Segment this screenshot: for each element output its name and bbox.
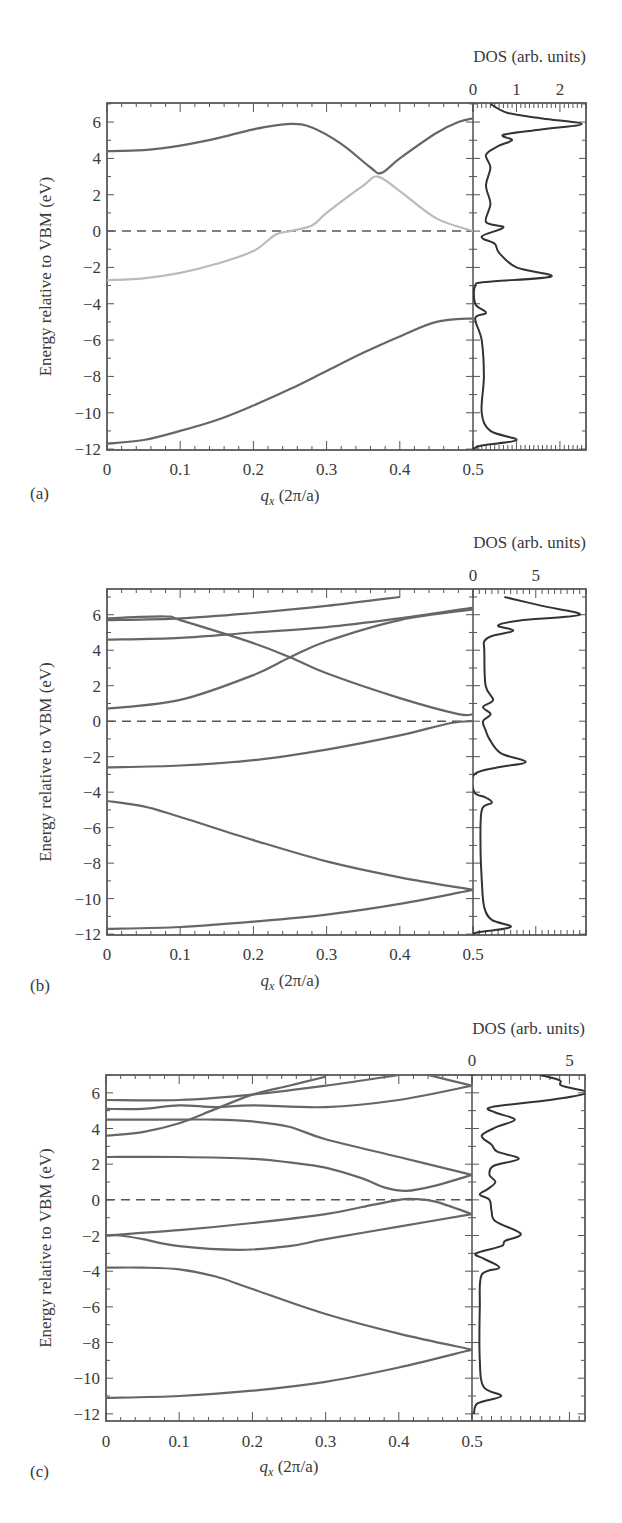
x-tick-label: 0.4 bbox=[389, 945, 411, 964]
y-tick-label: −12 bbox=[74, 925, 101, 944]
x-tick-label: 0.5 bbox=[461, 1432, 482, 1451]
x-tick-label: 0.1 bbox=[170, 945, 191, 964]
x-axis-title: qx (2π/a) bbox=[260, 1457, 319, 1479]
y-tick-label: −2 bbox=[82, 1227, 100, 1246]
y-tick-label: −4 bbox=[83, 295, 102, 314]
x-tick-label: 0.2 bbox=[242, 1432, 263, 1451]
band-line bbox=[107, 318, 473, 443]
y-tick-label: −10 bbox=[73, 1369, 100, 1388]
y-tick-label: 2 bbox=[92, 1155, 101, 1174]
dos-curve bbox=[473, 104, 582, 449]
y-tick-label: 2 bbox=[93, 186, 102, 205]
band-line bbox=[107, 176, 473, 280]
band-line bbox=[107, 801, 473, 890]
y-tick-label: 0 bbox=[92, 1191, 101, 1210]
dos-curve bbox=[472, 597, 580, 934]
y-tick-label: −4 bbox=[82, 1262, 101, 1281]
band-line bbox=[107, 616, 473, 715]
plot-frame bbox=[107, 103, 586, 450]
x-tick-label: 0.1 bbox=[169, 1432, 190, 1451]
band-line bbox=[107, 890, 473, 929]
y-tick-label: 0 bbox=[93, 222, 102, 241]
y-tick-label: −2 bbox=[83, 258, 101, 277]
dos-tick-label: 0 bbox=[469, 80, 478, 99]
x-tick-label: 0.5 bbox=[462, 460, 483, 479]
y-tick-label: −8 bbox=[83, 367, 101, 386]
y-tick-label: −6 bbox=[83, 331, 101, 350]
x-tick-label: 0.2 bbox=[243, 945, 264, 964]
band-structure-figure: 6420−2−4−6−8−10−1200.10.20.30.40.5012DOS… bbox=[0, 0, 622, 1523]
y-axis-title: Energy relative to VBM (eV) bbox=[36, 177, 55, 377]
panel-label: (a) bbox=[30, 484, 49, 503]
band-line bbox=[107, 721, 473, 767]
x-tick-label: 0 bbox=[103, 945, 112, 964]
dos-tick-label: 2 bbox=[556, 80, 565, 99]
y-axis-title: Energy relative to VBM (eV) bbox=[36, 1148, 55, 1348]
dos-axis-title: DOS (arb. units) bbox=[473, 47, 586, 66]
band-line bbox=[106, 1350, 472, 1398]
x-tick-label: 0.4 bbox=[389, 460, 411, 479]
band-line bbox=[107, 118, 473, 173]
y-tick-label: −12 bbox=[73, 1405, 100, 1424]
y-tick-label: 6 bbox=[93, 606, 102, 625]
x-tick-label: 0.4 bbox=[388, 1432, 410, 1451]
x-tick-label: 0 bbox=[103, 460, 112, 479]
y-tick-label: −12 bbox=[74, 440, 101, 459]
y-tick-label: 4 bbox=[93, 641, 102, 660]
x-tick-label: 0.2 bbox=[243, 460, 264, 479]
band-line bbox=[107, 608, 473, 640]
dos-axis-title: DOS (arb. units) bbox=[473, 533, 586, 552]
dos-curve bbox=[474, 1075, 587, 1414]
plot-frame bbox=[107, 589, 586, 935]
x-tick-label: 0.3 bbox=[315, 1432, 336, 1451]
y-tick-label: 6 bbox=[93, 113, 102, 132]
dos-tick-label: 5 bbox=[532, 566, 541, 585]
y-tick-label: −2 bbox=[83, 748, 101, 767]
y-tick-label: 2 bbox=[93, 677, 102, 696]
y-tick-label: 4 bbox=[93, 149, 102, 168]
x-axis-title: qx (2π/a) bbox=[261, 486, 320, 508]
dos-axis-title: DOS (arb. units) bbox=[472, 1019, 585, 1038]
dos-tick-label: 1 bbox=[512, 80, 521, 99]
plot-frame bbox=[106, 1075, 585, 1421]
x-tick-label: 0.3 bbox=[316, 460, 337, 479]
y-axis-title: Energy relative to VBM (eV) bbox=[36, 662, 55, 862]
panel-label: (b) bbox=[30, 976, 50, 995]
y-tick-label: −4 bbox=[83, 783, 102, 802]
x-tick-label: 0.1 bbox=[170, 460, 191, 479]
y-tick-label: 6 bbox=[92, 1084, 101, 1103]
x-tick-label: 0.5 bbox=[462, 945, 483, 964]
y-tick-label: −8 bbox=[82, 1334, 100, 1353]
y-tick-label: −10 bbox=[74, 404, 101, 423]
panel-label: (c) bbox=[30, 1462, 49, 1481]
band-line bbox=[428, 1075, 472, 1086]
dos-tick-label: 5 bbox=[565, 1051, 574, 1070]
x-tick-label: 0.3 bbox=[316, 945, 337, 964]
band-line bbox=[106, 1086, 472, 1109]
panel-c: 6420−2−4−6−8−10−1200.10.20.30.40.505DOS … bbox=[30, 1019, 587, 1481]
y-tick-label: −8 bbox=[83, 854, 101, 873]
y-tick-label: −6 bbox=[83, 819, 101, 838]
x-axis-title: qx (2π/a) bbox=[261, 971, 320, 993]
band-line bbox=[106, 1267, 472, 1349]
dos-tick-label: 0 bbox=[469, 566, 478, 585]
band-line bbox=[107, 609, 473, 708]
dos-tick-label: 0 bbox=[468, 1051, 477, 1070]
panel-a: 6420−2−4−6−8−10−1200.10.20.30.40.5012DOS… bbox=[30, 47, 586, 508]
band-line bbox=[106, 1199, 472, 1236]
y-tick-label: −10 bbox=[74, 890, 101, 909]
y-tick-label: 0 bbox=[93, 712, 102, 731]
y-tick-label: 4 bbox=[92, 1120, 101, 1139]
panel-b: 6420−2−4−6−8−10−1200.10.20.30.40.505DOS … bbox=[30, 533, 586, 995]
y-tick-label: −6 bbox=[82, 1298, 100, 1317]
x-tick-label: 0 bbox=[102, 1432, 111, 1451]
